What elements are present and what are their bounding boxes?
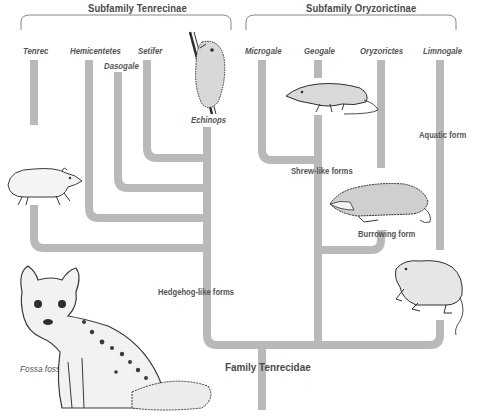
mole-tenrec-icon (328, 180, 433, 225)
aquatic-form-label: Aquatic form (419, 131, 466, 140)
subfamily-tenrecinae-label: Subfamily Tenrecinae (88, 3, 187, 14)
shrew-like-forms-label: Shrew-like forms (291, 167, 353, 176)
genus-setifer-label: Setifer (138, 47, 162, 56)
water-tenrec-icon (390, 255, 475, 335)
genus-echinops-label: Echinops (191, 116, 226, 125)
shrew-tenrec-icon (284, 80, 380, 116)
genus-dasogale-label: Dasogale (104, 62, 139, 71)
fossa-icon (12, 262, 217, 412)
branch-tenrec-lower (34, 205, 207, 248)
family-tenrecidae-label: Family Tenrecidae (225, 362, 311, 373)
tenrecinae-bracket (21, 15, 231, 30)
subfamily-oryzorictinae-label: Subfamily Oryzorictinae (306, 3, 416, 14)
genus-hemicentetes-label: Hemicentetes (70, 47, 121, 56)
echinops-climbing-icon (180, 30, 230, 115)
oryzorictinae-bracket (246, 15, 456, 30)
tenrec-icon (4, 163, 84, 208)
genus-geogale-label: Geogale (304, 47, 335, 56)
genus-microgale-label: Microgale (245, 47, 282, 56)
genus-tenrec-label: Tenrec (23, 47, 48, 56)
genus-oryzorictes-label: Oryzorictes (360, 47, 403, 56)
genus-limnogale-label: Limnogale (423, 47, 462, 56)
burrowing-form-label: Burrowing form (358, 230, 415, 239)
